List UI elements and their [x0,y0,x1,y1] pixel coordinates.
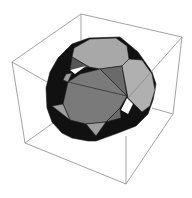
polyhedron [46,37,156,141]
box-edge-left-vertical [12,62,25,143]
box-edge-top-back-right [81,14,182,37]
polyhedron-plot [0,0,192,198]
box-edge-bottom-right-back [152,108,173,114]
box-edge-bottom-front-left [25,143,126,184]
box-edge-right-vertical [173,37,182,114]
box-edge-top-front-left [12,62,47,82]
